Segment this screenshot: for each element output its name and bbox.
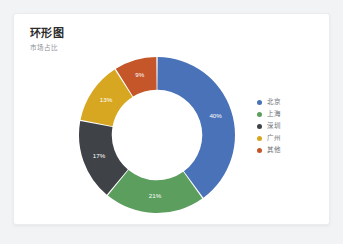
app-root: 环形图 市场占比 40%21%17%13%9% 北京上海深圳广州其他 [0, 0, 343, 244]
legend-item[interactable]: 北京 [257, 96, 323, 108]
chart-area: 40%21%17%13%9% 北京上海深圳广州其他 [14, 14, 329, 224]
legend-item[interactable]: 其他 [257, 144, 323, 156]
donut-slice-label: 17% [93, 152, 106, 159]
legend-color-dot-icon [257, 148, 262, 153]
chart-card: 环形图 市场占比 40%21%17%13%9% 北京上海深圳广州其他 [13, 13, 330, 225]
donut-slice-group [79, 57, 235, 213]
donut-chart: 40%21%17%13%9% [76, 54, 238, 216]
legend-item-label: 上海 [267, 108, 281, 120]
legend-item[interactable]: 上海 [257, 108, 323, 120]
donut-svg: 40%21%17%13%9% [76, 54, 238, 216]
donut-slice-label: 13% [100, 96, 113, 103]
legend-item-label: 其他 [267, 144, 281, 156]
legend-item[interactable]: 深圳 [257, 120, 323, 132]
legend-color-dot-icon [257, 124, 262, 129]
legend-color-dot-icon [257, 136, 262, 141]
donut-slice-label: 21% [149, 192, 162, 199]
donut-slice-label: 40% [209, 112, 222, 119]
legend-color-dot-icon [257, 100, 262, 105]
legend-item-label: 深圳 [267, 120, 281, 132]
legend-item[interactable]: 广州 [257, 132, 323, 144]
donut-slice[interactable] [157, 57, 235, 198]
donut-slice-label: 9% [135, 71, 144, 78]
legend-item-label: 北京 [267, 96, 281, 108]
legend-color-dot-icon [257, 112, 262, 117]
chart-legend: 北京上海深圳广州其他 [257, 96, 323, 156]
legend-item-label: 广州 [267, 132, 281, 144]
